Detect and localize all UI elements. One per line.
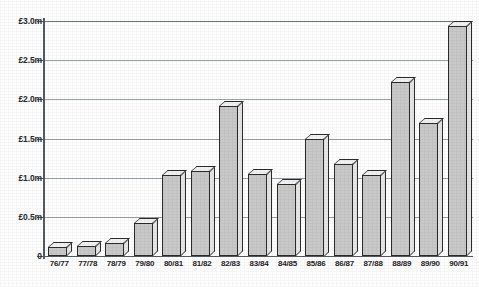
- bar-front-face: [48, 247, 67, 256]
- x-axis-tick-label: 88/89: [387, 259, 416, 268]
- bar-front-face: [305, 139, 324, 257]
- bar-front-face: [362, 175, 381, 256]
- bar-side-face: [353, 159, 358, 256]
- bar-chart: 0£0.5m£1.0m£1.5m£2.0m£2.5m£3.0m 76/7777/…: [0, 0, 479, 287]
- bar-front-face: [219, 106, 238, 256]
- x-axis-tick-label: 82/83: [216, 259, 245, 268]
- bar-side-face: [467, 21, 472, 256]
- x-axis-tick-label: 89/90: [416, 259, 445, 268]
- bar-side-face: [210, 166, 215, 256]
- bar-front-face: [162, 175, 181, 256]
- bar: [391, 82, 410, 256]
- x-axis-tick-label: 83/84: [245, 259, 274, 268]
- chart-screenshot: 0£0.5m£1.0m£1.5m£2.0m£2.5m£3.0m 76/7777/…: [0, 0, 479, 287]
- bar-front-face: [448, 26, 467, 256]
- bar: [277, 184, 296, 256]
- bar-side-face: [381, 170, 386, 256]
- bar-front-face: [134, 223, 153, 256]
- x-axis-tick-label: 77/78: [74, 259, 103, 268]
- x-axis-tick-label: 90/91: [444, 259, 473, 268]
- bar: [134, 223, 153, 256]
- y-axis-tick-label: £2.0m: [18, 94, 42, 104]
- bar: [448, 26, 467, 256]
- bar-front-face: [277, 184, 296, 256]
- bar-series: [45, 0, 473, 287]
- x-axis-tick-label: 79/80: [131, 259, 160, 268]
- bar-side-face: [296, 179, 301, 256]
- x-axis-tick-label: 80/81: [159, 259, 188, 268]
- y-axis-tick-label: £1.0m: [18, 173, 42, 183]
- bar-side-face: [410, 77, 415, 256]
- bar: [191, 171, 210, 256]
- bar-front-face: [77, 246, 96, 256]
- x-axis-tick-label: 81/82: [188, 259, 217, 268]
- x-axis-tick-label: 84/85: [273, 259, 302, 268]
- bar: [305, 139, 324, 257]
- bar: [362, 175, 381, 256]
- x-axis-tick-label: 85/86: [302, 259, 331, 268]
- bar-front-face: [105, 243, 124, 256]
- bar-side-face: [267, 169, 272, 256]
- bar: [77, 246, 96, 256]
- bar: [219, 106, 238, 256]
- x-axis-tick-label: 78/79: [102, 259, 131, 268]
- y-axis-tick-label: £3.0m: [18, 16, 42, 26]
- y-axis-tick-label: £0.5m: [18, 212, 42, 222]
- bar-front-face: [191, 171, 210, 256]
- bar: [334, 164, 353, 256]
- bar-front-face: [419, 123, 438, 256]
- bar: [248, 174, 267, 256]
- y-axis-tick-label: £2.5m: [18, 55, 42, 65]
- bar-front-face: [334, 164, 353, 256]
- bar-side-face: [181, 170, 186, 256]
- bar-side-face: [438, 118, 443, 256]
- x-axis-tick-label: 87/88: [359, 259, 388, 268]
- x-axis-tick-label: 86/87: [330, 259, 359, 268]
- bar-side-face: [324, 134, 329, 257]
- bar-front-face: [248, 174, 267, 256]
- bar: [105, 243, 124, 256]
- bar: [162, 175, 181, 256]
- bar: [419, 123, 438, 256]
- bar: [48, 247, 67, 256]
- y-axis-tick-label: 0: [37, 251, 42, 261]
- bar-side-face: [153, 218, 158, 256]
- x-axis-tick-label: 76/77: [45, 259, 74, 268]
- bar-front-face: [391, 82, 410, 256]
- y-axis-tick-label: £1.5m: [18, 134, 42, 144]
- bar-side-face: [238, 101, 243, 256]
